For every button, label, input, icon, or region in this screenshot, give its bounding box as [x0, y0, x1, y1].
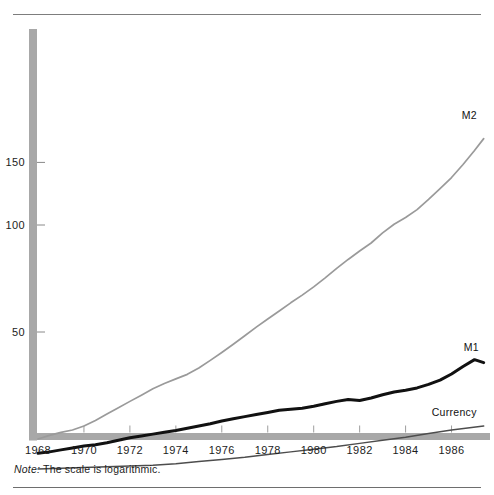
- x-axis-tick-label: 1984: [384, 444, 428, 456]
- x-axis-tick-label: 1970: [62, 444, 106, 456]
- note-prefix: Note:: [14, 463, 40, 475]
- x-axis-tick-label: 1972: [108, 444, 152, 456]
- x-axis-tick-label: 1968: [16, 444, 60, 456]
- line-chart: [0, 0, 494, 460]
- series-label-currency: Currency: [432, 406, 477, 418]
- x-axis-tick-label: 1980: [292, 444, 336, 456]
- x-axis-tick-label: 1976: [200, 444, 244, 456]
- x-axis-tick-label: 1982: [338, 444, 382, 456]
- x-axis-tick-label: 1978: [246, 444, 290, 456]
- y-axis-tick-label: 150: [0, 156, 25, 168]
- plot-area: 50 100 150 19681970197219741976197819801…: [0, 0, 494, 460]
- x-axis-tick-label: 1986: [430, 444, 474, 456]
- note-body: The scale is logarithmic.: [43, 463, 161, 475]
- y-axis-tick-label: 100: [0, 219, 25, 231]
- chart-note: Note: The scale is logarithmic.: [14, 463, 161, 475]
- figure-container: 50 100 150 19681970197219741976197819801…: [0, 0, 494, 495]
- y-axis-tick-label: 50: [0, 326, 25, 338]
- series-label-m2: M2: [462, 109, 477, 121]
- series-line-m2: [38, 139, 484, 439]
- y-axis-band: [29, 29, 37, 441]
- series-label-m1: M1: [464, 341, 479, 353]
- bottom-divider-rule: [13, 487, 481, 488]
- x-axis-tick-label: 1974: [154, 444, 198, 456]
